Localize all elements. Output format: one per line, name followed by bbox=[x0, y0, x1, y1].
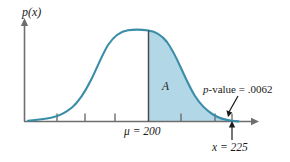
pvalue-annotation-label: p-value = .0062 bbox=[203, 84, 272, 95]
normal-distribution-figure: p(x) A μ = 200 p-value = .0062 x = 225 bbox=[0, 0, 290, 162]
pvalue-text: -value = .0062 bbox=[209, 83, 273, 95]
y-axis-label: p(x) bbox=[22, 6, 41, 18]
x-cutoff-value-label: x = 225 bbox=[212, 142, 248, 154]
mean-value-label: μ = 200 bbox=[124, 126, 161, 138]
shaded-region-label: A bbox=[162, 81, 169, 93]
x-axis-arrowhead bbox=[251, 118, 259, 125]
pvalue-leader-line bbox=[229, 96, 238, 112]
normal-density-curve bbox=[28, 30, 239, 122]
distribution-plot-svg bbox=[0, 0, 290, 162]
shaded-area-region bbox=[149, 31, 233, 122]
y-axis-arrowhead bbox=[21, 18, 28, 26]
